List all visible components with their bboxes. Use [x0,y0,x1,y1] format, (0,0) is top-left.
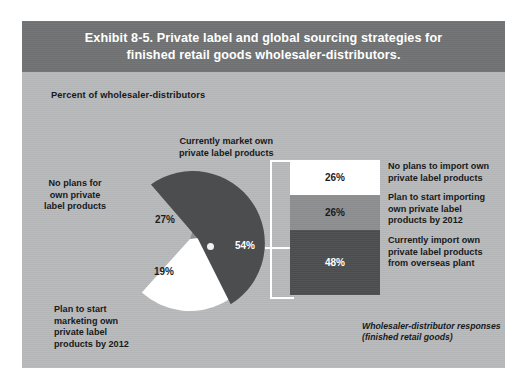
footnote-line-1: Wholesaler-distributor responses [362,321,501,332]
bar-label-plan-import-line-2: own private label [388,204,485,216]
bar-label-no-import: No plans to import own private label pro… [388,161,489,184]
chart-canvas: 54% 27% 19% No plans for own private lab… [22,21,505,368]
stacked-bar-chart: 26% 26% 48% [290,160,380,295]
bar-value-no-import: 26% [325,172,345,183]
bar-label-no-import-line-1: No plans to import own [388,161,489,173]
footnote-line-2: (finished retail goods) [362,332,501,343]
pie-chart [116,160,271,315]
pie-label-no-plans-line-2: own private [44,190,106,202]
bar-value-plan-import: 26% [325,207,345,218]
bar-label-plan-import-line-1: Plan to start importing [388,192,485,204]
pie-label-plan-line-1: Plan to start [54,304,129,316]
pie-label-no-plans-line-3: label products [44,201,106,213]
exhibit-figure: Exhibit 8-5. Private label and global so… [0,0,529,390]
bar-label-currently-import-line-1: Currently import own [388,235,483,247]
bar-label-plan-import: Plan to start importing own private labe… [388,192,485,227]
pie-leader-dot [207,243,214,250]
pie-value-currently-market: 54% [235,240,255,251]
pie-label-plan-start: Plan to start marketing own private labe… [54,304,129,350]
pie-label-no-plans: No plans for own private label products [44,178,106,213]
bar-label-currently-import-line-2: private label products [388,247,483,259]
pie-label-plan-line-2: marketing own [54,316,129,328]
bar-label-currently-import-line-3: from overseas plant [388,258,483,270]
pie-value-no-plans: 27% [155,214,175,225]
pie-label-currently-line-2: private label products [179,148,274,160]
bar-segment-plan-import: 26% [290,195,380,230]
pie-label-plan-line-4: products by 2012 [54,339,129,351]
bar-label-no-import-line-2: private label products [388,173,489,185]
bar-label-plan-import-line-3: products by 2012 [388,215,485,227]
bar-segment-currently-import: 48% [290,230,380,295]
bar-label-currently-import: Currently import own private label produ… [388,235,483,270]
pie-svg [116,160,271,315]
chart-footnote: Wholesaler-distributor responses (finish… [362,321,501,343]
pie-label-currently-line-1: Currently market own [179,136,274,148]
bar-segment-no-import: 26% [290,160,380,195]
pie-label-plan-line-3: private label [54,327,129,339]
pie-label-currently-market: Currently market own private label produ… [179,136,274,159]
pie-label-no-plans-line-1: No plans for [44,178,106,190]
bar-value-currently-import: 48% [325,257,345,268]
pie-value-plan-start: 19% [154,266,174,277]
chart-panel: Exhibit 8-5. Private label and global so… [22,21,505,368]
